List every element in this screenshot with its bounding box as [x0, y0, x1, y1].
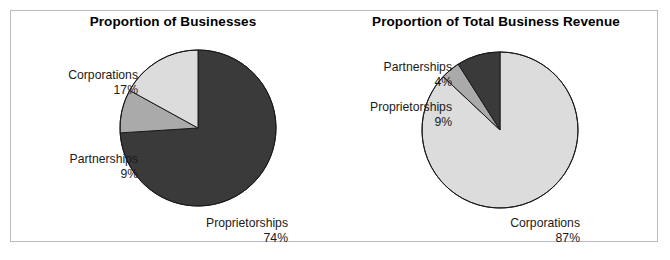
label-right-proprietorships-pct: 9%	[326, 115, 452, 130]
label-left-proprietorships-name: Proprietorships	[128, 216, 288, 231]
label-left-proprietorships: Proprietorships 74%	[128, 216, 288, 245]
label-right-partnerships-name: Partnerships	[352, 60, 452, 75]
label-right-corporations-name: Corporations	[438, 216, 580, 231]
label-right-partnerships: Partnerships 4%	[352, 60, 452, 89]
chart-title-left: Proportion of Businesses	[12, 14, 334, 29]
label-left-corporations-pct: 17%	[34, 83, 138, 98]
label-right-corporations-pct: 87%	[438, 231, 580, 246]
label-left-partnerships-pct: 9%	[34, 167, 138, 182]
label-right-proprietorships-name: Proprietorships	[326, 100, 452, 115]
label-right-partnerships-pct: 4%	[352, 75, 452, 90]
label-left-partnerships: Partnerships 9%	[34, 152, 138, 181]
label-left-corporations: Corporations 17%	[34, 68, 138, 97]
label-left-corporations-name: Corporations	[34, 68, 138, 83]
label-right-corporations: Corporations 87%	[438, 216, 580, 245]
label-left-partnerships-name: Partnerships	[34, 152, 138, 167]
figure-canvas: Proportion of Businesses Corporations 17…	[0, 0, 670, 260]
chart-title-right: Proportion of Total Business Revenue	[334, 14, 658, 29]
label-left-proprietorships-pct: 74%	[128, 231, 288, 246]
label-right-proprietorships: Proprietorships 9%	[326, 100, 452, 129]
